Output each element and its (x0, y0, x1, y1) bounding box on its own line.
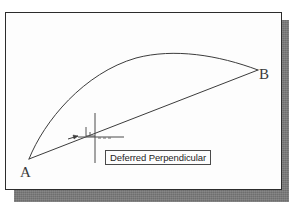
perpendicular-osnap-icon (86, 127, 95, 136)
osnap-tooltip-label: Deferred Perpendicular (110, 153, 206, 163)
drawing-area[interactable]: A B Deferred Perpendicular (5, 12, 282, 190)
vertex-label-b: B (259, 67, 269, 82)
chord-a-to-b[interactable] (29, 70, 258, 159)
screenshot-root: A B Deferred Perpendicular (0, 0, 296, 206)
arc-a-to-b[interactable] (29, 53, 258, 159)
osnap-tooltip: Deferred Perpendicular (105, 150, 211, 165)
vertex-label-a: A (20, 165, 31, 180)
snap-direction-arrow-icon (68, 135, 78, 139)
